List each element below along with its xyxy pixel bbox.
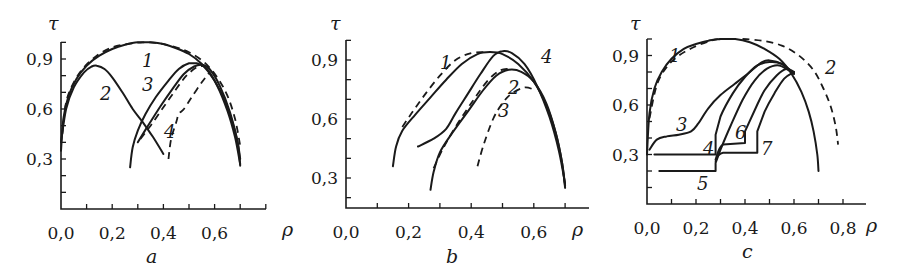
panel-c: τ ρ c 0,00,20,40,60,8 0,30,60,9 1 2 3 4 … <box>612 12 878 262</box>
x-tick-label: 0,2 <box>395 222 422 242</box>
x-axis-label: ρ <box>281 218 294 240</box>
curve-label-2: 2 <box>99 83 111 104</box>
x-tick-label: 0,4 <box>458 222 485 242</box>
curve-label-1: 1 <box>142 50 153 71</box>
y-axis-label: τ <box>630 12 641 34</box>
curve-label-5: 5 <box>697 173 708 194</box>
curve-label-7: 7 <box>761 138 773 159</box>
y-tick-label: 0,3 <box>26 149 53 169</box>
curve-2 <box>431 70 566 190</box>
x-tick-label: 0,2 <box>99 223 126 243</box>
x-axis-label: ρ <box>571 218 584 240</box>
curve-label-2: 2 <box>824 57 836 78</box>
curve-3 <box>650 60 795 149</box>
curve-1-dashed <box>650 39 719 118</box>
y-tick-label: 0,3 <box>311 168 338 188</box>
curve-label-1: 1 <box>440 52 451 73</box>
x-axis-label: ρ <box>865 214 878 236</box>
panel-a: τ ρ a 0,00,20,40,6 0,30,60,9 1 2 3 4 <box>26 12 294 267</box>
y-tick-label: 0,6 <box>26 99 53 119</box>
panel-label: a <box>146 245 157 267</box>
curve-label-4: 4 <box>702 138 714 159</box>
y-tick-label: 0,3 <box>612 145 639 165</box>
curve-label-2: 2 <box>507 77 519 98</box>
x-tick-label: 0,4 <box>150 223 177 243</box>
curve-1 <box>393 52 565 188</box>
panel-label: c <box>742 240 753 262</box>
x-tick-label: 0,6 <box>520 222 547 242</box>
curve-label-3: 3 <box>676 114 687 135</box>
x-tick-label: 0,8 <box>829 218 856 238</box>
y-axis-label: τ <box>48 12 59 34</box>
curve-label-1: 1 <box>669 45 680 66</box>
curve-7 <box>716 72 794 161</box>
y-tick-label: 0,6 <box>612 95 639 115</box>
x-tick-label: 0,6 <box>201 223 228 243</box>
curve-label-4: 4 <box>540 46 552 67</box>
x-tick-label: 0,2 <box>682 218 709 238</box>
panel-b: τ ρ b 0,00,20,40,6 0,30,60,9 1 2 3 4 <box>311 12 589 267</box>
panel-label: b <box>446 245 458 267</box>
x-tick-label: 0,0 <box>47 223 74 243</box>
curve-label-6: 6 <box>735 122 746 143</box>
y-tick-label: 0,9 <box>612 46 639 66</box>
x-tick-label: 0,0 <box>633 218 660 238</box>
curve-label-3: 3 <box>498 100 509 121</box>
y-axis-label: τ <box>330 12 341 34</box>
x-tick-label: 0,0 <box>332 222 359 242</box>
x-tick-label: 0,4 <box>731 218 758 238</box>
y-tick-label: 0,6 <box>311 109 338 129</box>
curve-2 <box>743 39 839 145</box>
y-tick-label: 0,9 <box>311 50 338 70</box>
y-tick-label: 0,9 <box>26 49 53 69</box>
curve-label-3: 3 <box>142 74 153 95</box>
figure: τ ρ a 0,00,20,40,6 0,30,60,9 1 2 3 4 τ ρ… <box>0 0 898 279</box>
curve-label-4: 4 <box>163 121 175 142</box>
x-tick-label: 0,6 <box>780 218 807 238</box>
